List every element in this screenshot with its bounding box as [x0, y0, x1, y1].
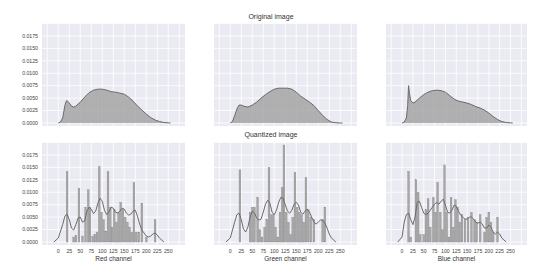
- svg-text:150: 150: [292, 248, 301, 254]
- title-original: Original image: [0, 13, 542, 20]
- svg-text:100: 100: [441, 248, 450, 254]
- svg-text:75: 75: [88, 248, 94, 254]
- svg-text:0.0075: 0.0075: [22, 201, 38, 207]
- svg-text:0.0150: 0.0150: [22, 45, 38, 51]
- svg-text:150: 150: [120, 248, 129, 254]
- svg-text:0.0050: 0.0050: [22, 214, 38, 220]
- svg-text:175: 175: [303, 248, 312, 254]
- svg-text:175: 175: [131, 248, 140, 254]
- svg-text:250: 250: [336, 248, 345, 254]
- panel-original-green: [214, 23, 357, 126]
- svg-text:75: 75: [432, 248, 438, 254]
- panel-quantized-green: 0255075100125150175200225250Green channe…: [214, 142, 357, 262]
- svg-text:0.0100: 0.0100: [22, 189, 38, 195]
- svg-text:0.0150: 0.0150: [22, 164, 38, 170]
- svg-text:0: 0: [57, 248, 60, 254]
- svg-text:0.0050: 0.0050: [22, 95, 38, 101]
- x-tick-labels: 0255075100125150175200225250: [401, 248, 515, 254]
- svg-text:0: 0: [229, 248, 232, 254]
- svg-text:225: 225: [153, 248, 162, 254]
- svg-text:0.0125: 0.0125: [22, 58, 38, 64]
- panel-original-red: 0.00000.00250.00500.00750.01000.01250.01…: [22, 23, 185, 126]
- svg-text:0.0075: 0.0075: [22, 82, 38, 88]
- svg-text:250: 250: [506, 248, 515, 254]
- svg-text:200: 200: [142, 248, 151, 254]
- svg-text:25: 25: [410, 248, 416, 254]
- svg-text:175: 175: [474, 248, 483, 254]
- svg-text:25: 25: [66, 248, 72, 254]
- y-tick-labels: 0.00000.00250.00500.00750.01000.01250.01…: [22, 33, 38, 126]
- panel-original-blue: [386, 23, 527, 126]
- x-axis-label: Green channel: [264, 255, 307, 262]
- svg-text:0.0125: 0.0125: [22, 177, 38, 183]
- svg-text:0.0175: 0.0175: [22, 152, 38, 158]
- svg-text:125: 125: [281, 248, 290, 254]
- svg-text:225: 225: [495, 248, 504, 254]
- svg-text:50: 50: [421, 248, 427, 254]
- svg-text:125: 125: [109, 248, 118, 254]
- svg-text:100: 100: [270, 248, 279, 254]
- svg-text:150: 150: [463, 248, 472, 254]
- x-tick-labels: 0255075100125150175200225250: [57, 248, 173, 254]
- svg-text:225: 225: [325, 248, 334, 254]
- title-quantized: Quantized image: [0, 131, 542, 138]
- svg-text:0.0025: 0.0025: [22, 107, 38, 113]
- x-tick-labels: 0255075100125150175200225250: [229, 248, 345, 254]
- svg-text:125: 125: [452, 248, 461, 254]
- svg-text:50: 50: [249, 248, 255, 254]
- x-axis-label: Blue channel: [438, 255, 476, 262]
- y-tick-labels: 0.00000.00250.00500.00750.01000.01250.01…: [22, 152, 38, 245]
- panel-quantized-red: 0255075100125150175200225250Red channel0…: [22, 142, 185, 262]
- svg-text:200: 200: [484, 248, 493, 254]
- panel-quantized-blue: 0255075100125150175200225250Blue channel: [386, 142, 527, 262]
- svg-text:0.0000: 0.0000: [22, 120, 38, 126]
- x-axis-label: Red channel: [95, 255, 132, 262]
- svg-text:200: 200: [314, 248, 323, 254]
- svg-text:0.0025: 0.0025: [22, 226, 38, 232]
- svg-text:0: 0: [401, 248, 404, 254]
- svg-text:0.0100: 0.0100: [22, 70, 38, 76]
- svg-text:75: 75: [260, 248, 266, 254]
- svg-text:0.0175: 0.0175: [22, 33, 38, 39]
- svg-text:250: 250: [164, 248, 173, 254]
- svg-text:50: 50: [77, 248, 83, 254]
- svg-text:100: 100: [98, 248, 107, 254]
- svg-text:0.0000: 0.0000: [22, 239, 38, 245]
- svg-text:25: 25: [238, 248, 244, 254]
